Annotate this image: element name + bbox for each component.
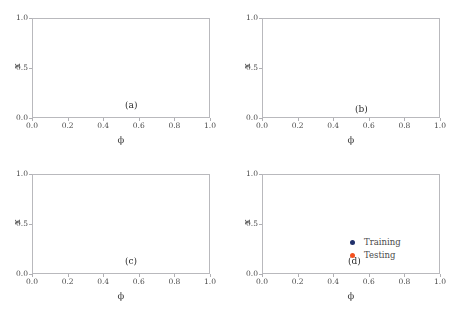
figure-root: x ϕ (a) 0.00.20.40.60.81.00.00.51.0 x ϕ … [0, 0, 460, 312]
panel-b-xtick-5: 1.0 [429, 121, 451, 130]
panel-c-plot-area [32, 174, 210, 274]
panel-d-ytickmark-0 [259, 274, 262, 275]
panel-d-ytickmark-1 [259, 224, 262, 225]
panel-c-ytickmark-2 [29, 174, 32, 175]
panel-a-axes-frame [32, 18, 210, 118]
panel-b-xtick-3: 0.6 [358, 121, 380, 130]
panel-c-ytick-1: 0.5 [8, 219, 28, 228]
panel-a-xtick-2: 0.4 [92, 121, 114, 130]
panel-d-xtickmark-1 [298, 274, 299, 277]
panel-a-xtick-4: 0.8 [163, 121, 185, 130]
panel-b-ytickmark-2 [259, 18, 262, 19]
panel-b-xlabel: ϕ [262, 134, 440, 145]
panel-a-xtickmark-5 [210, 118, 211, 121]
panel-b-ytick-0: 0.0 [238, 113, 258, 122]
panel-a-ytick-2: 1.0 [8, 13, 28, 22]
panel-d-xtickmark-4 [404, 274, 405, 277]
panel-b-xtickmark-5 [440, 118, 441, 121]
panel-b-xtickmark-2 [333, 118, 334, 121]
panel-c-xtick-4: 0.8 [163, 277, 185, 286]
panel-d-xtickmark-3 [369, 274, 370, 277]
panel-b-xtickmark-4 [404, 118, 405, 121]
panel-b-ytickmark-1 [259, 68, 262, 69]
panel-c-xtick-1: 0.2 [57, 277, 79, 286]
panel-b-xtickmark-1 [298, 118, 299, 121]
panel-b-axes-frame [262, 18, 440, 118]
panel-b-xtick-0: 0.0 [251, 121, 273, 130]
panel-b: x ϕ (b) 0.00.20.40.60.81.00.00.51.0 [230, 0, 460, 156]
panel-d-xtick-2: 0.4 [322, 277, 344, 286]
panel-b-ytick-1: 0.5 [238, 63, 258, 72]
panel-a: x ϕ (a) 0.00.20.40.60.81.00.00.51.0 [0, 0, 230, 156]
panel-a-ytickmark-0 [29, 118, 32, 119]
panel-c-xtickmark-3 [139, 274, 140, 277]
panel-a-ytickmark-2 [29, 18, 32, 19]
panel-c-ytickmark-1 [29, 224, 32, 225]
panel-b-plot-area [262, 18, 440, 118]
panel-b-xtickmark-0 [262, 118, 263, 121]
panel-d-ytick-2: 1.0 [238, 169, 258, 178]
panel-d-label: (d) [348, 256, 361, 266]
panel-a-xtick-0: 0.0 [21, 121, 43, 130]
panel-a-xtickmark-4 [174, 118, 175, 121]
legend-marker-training [350, 240, 355, 245]
panel-a-xtick-5: 1.0 [199, 121, 221, 130]
panel-b-xtickmark-3 [369, 118, 370, 121]
panel-d-xtickmark-0 [262, 274, 263, 277]
panel-b-ytick-2: 1.0 [238, 13, 258, 22]
panel-a-xtickmark-0 [32, 118, 33, 121]
panel-b-xtick-2: 0.4 [322, 121, 344, 130]
panel-c-xtick-2: 0.4 [92, 277, 114, 286]
panel-d-xtickmark-2 [333, 274, 334, 277]
panel-c-ytick-2: 1.0 [8, 169, 28, 178]
panel-a-ytickmark-1 [29, 68, 32, 69]
panel-c-xtick-3: 0.6 [128, 277, 150, 286]
panel-c-ytickmark-0 [29, 274, 32, 275]
panel-a-xtickmark-3 [139, 118, 140, 121]
panel-d-ytick-0: 0.0 [238, 269, 258, 278]
panel-a-xtick-1: 0.2 [57, 121, 79, 130]
panel-d-xtick-4: 0.8 [393, 277, 415, 286]
panel-c-xtickmark-2 [103, 274, 104, 277]
panel-a-label: (a) [125, 100, 137, 110]
panel-c: x ϕ (c) 0.00.20.40.60.81.00.00.51.0 [0, 156, 230, 312]
panel-d-ytickmark-2 [259, 174, 262, 175]
panel-d-xtick-3: 0.6 [358, 277, 380, 286]
panel-a-plot-area [32, 18, 210, 118]
panel-d-xlabel: ϕ [262, 290, 440, 301]
panel-b-ytickmark-0 [259, 118, 262, 119]
panel-c-xtickmark-5 [210, 274, 211, 277]
panel-d-xtickmark-5 [440, 274, 441, 277]
panel-d-xtick-1: 0.2 [287, 277, 309, 286]
panel-b-label: (b) [355, 104, 368, 114]
panel-c-xtickmark-1 [68, 274, 69, 277]
panel-d: Training Testing x ϕ (d) 0.00.20.40.60.8… [230, 156, 460, 312]
panel-a-xtickmark-2 [103, 118, 104, 121]
panel-c-xtickmark-4 [174, 274, 175, 277]
panel-c-xlabel: ϕ [32, 290, 210, 301]
panel-d-xtick-0: 0.0 [251, 277, 273, 286]
panel-a-xlabel: ϕ [32, 134, 210, 145]
panel-c-axes-frame [32, 174, 210, 274]
panel-a-xtickmark-1 [68, 118, 69, 121]
panel-a-ytick-0: 0.0 [8, 113, 28, 122]
panel-a-ytick-1: 0.5 [8, 63, 28, 72]
legend-label-training: Training [364, 236, 401, 249]
panel-c-ytick-0: 0.0 [8, 269, 28, 278]
legend-item-training: Training [350, 236, 401, 249]
panel-b-xtick-1: 0.2 [287, 121, 309, 130]
panel-d-xtick-5: 1.0 [429, 277, 451, 286]
panel-c-xtickmark-0 [32, 274, 33, 277]
legend-label-testing: Testing [364, 249, 395, 262]
panel-c-xtick-5: 1.0 [199, 277, 221, 286]
panel-d-ytick-1: 0.5 [238, 219, 258, 228]
panel-c-label: (c) [125, 256, 137, 266]
panel-a-xtick-3: 0.6 [128, 121, 150, 130]
panel-c-xtick-0: 0.0 [21, 277, 43, 286]
panel-b-xtick-4: 0.8 [393, 121, 415, 130]
